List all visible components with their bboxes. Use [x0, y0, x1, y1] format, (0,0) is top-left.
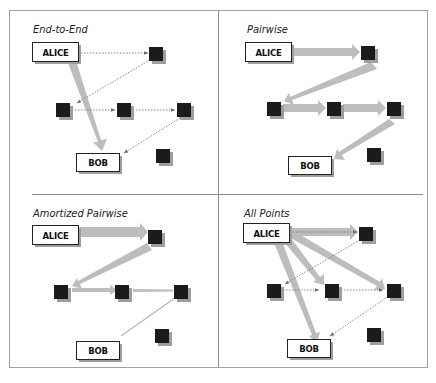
alice-box: ALICE [246, 43, 295, 65]
panel-title: Amortized Pairwise [32, 207, 128, 220]
alice-label: ALICE [42, 48, 69, 58]
alice-label: ALICE [42, 231, 69, 241]
bob-label: BOB [299, 344, 319, 354]
bob-box: BOB [77, 154, 123, 175]
bob-box: BOB [289, 157, 335, 178]
bob-label: BOB [300, 161, 320, 171]
panel-title: Pairwise [247, 23, 288, 36]
alice-box: ALICE [33, 43, 82, 65]
bob-label: BOB [88, 346, 108, 356]
panel-title: End-to-End [33, 23, 88, 36]
alice-label: ALICE [253, 229, 280, 239]
alice-box: ALICE [244, 224, 293, 246]
panel-title: All Points [243, 207, 290, 220]
bob-box: BOB [77, 342, 123, 363]
bob-box: BOB [288, 340, 334, 361]
alice-label: ALICE [255, 48, 282, 58]
security-models-figure: End-to-End ALICE BOB [0, 0, 436, 383]
alice-box: ALICE [33, 226, 82, 248]
bob-label: BOB [88, 158, 108, 168]
